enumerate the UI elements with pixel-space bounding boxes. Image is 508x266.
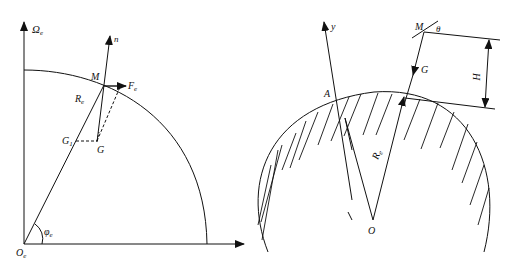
- phi-angle-arc: [35, 224, 43, 244]
- R-label: Re: [74, 93, 84, 106]
- y-label: y: [330, 21, 336, 32]
- M-label: M: [90, 71, 100, 82]
- R-label: Re: [369, 148, 385, 162]
- n-label: n: [114, 34, 119, 44]
- omega-label: Ωe: [32, 23, 43, 37]
- gravity-line: [404, 75, 413, 105]
- left-figure: Ωe n M Fe Re G1 G φe Oe: [16, 22, 244, 260]
- G1-label: G1: [62, 135, 73, 148]
- radius-line: [348, 212, 352, 220]
- G-label: G: [421, 64, 428, 75]
- diagram-canvas: Ωe n M Fe Re G1 G φe Oe: [0, 0, 508, 266]
- earth-arc: [24, 70, 207, 244]
- phi-label: φe: [44, 226, 53, 239]
- y-axis: [324, 22, 352, 200]
- O-label: O: [368, 225, 375, 236]
- H-dimension-down: [485, 72, 487, 107]
- G-label: G: [97, 144, 104, 155]
- radius-left: [345, 118, 373, 220]
- O-label: Oe: [16, 247, 26, 260]
- H-dimension-up: [487, 40, 489, 72]
- A-label: A: [323, 88, 331, 99]
- right-figure: y M θ G H A Re O: [258, 21, 500, 252]
- y-axis-lower: [345, 118, 352, 150]
- radius-line: [24, 85, 104, 244]
- M-label: M: [414, 21, 424, 32]
- theta-label: θ: [436, 24, 441, 34]
- H-label: H: [471, 72, 482, 81]
- F-label: Fe: [127, 80, 137, 93]
